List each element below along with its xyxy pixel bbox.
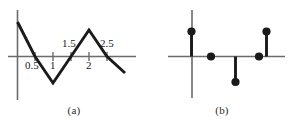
panel-b: (b): [148, 0, 296, 129]
stem-dot-2: [207, 52, 215, 60]
stem-dot-1: [187, 27, 195, 35]
panel-a-caption: (a): [0, 104, 148, 116]
figure-container: 0.5 1 1.5 2 2.5 (a) (b: [0, 0, 296, 129]
tick-label-1-5: 1.5: [62, 37, 76, 49]
stem-dot-3: [231, 78, 239, 86]
tick-label-2: 2: [86, 59, 92, 71]
stem-dot-5: [262, 27, 270, 35]
panel-b-caption: (b): [148, 104, 296, 116]
panel-a: 0.5 1 1.5 2 2.5 (a): [0, 0, 148, 129]
stem-dot-4: [255, 52, 263, 60]
tick-label-2-5: 2.5: [100, 37, 114, 49]
tick-label-0-5: 0.5: [25, 59, 39, 71]
tick-label-1: 1: [50, 59, 56, 71]
